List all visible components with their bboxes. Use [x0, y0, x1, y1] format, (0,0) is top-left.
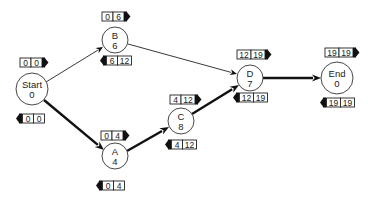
critical-path-network-diagram: Start00000B606612A40404C8412412D71219121… [0, 0, 368, 202]
node-duration: 0 [334, 78, 339, 89]
forward-pass-box: 00 [20, 57, 49, 68]
start-value: 19 [327, 48, 337, 58]
start-value: 0 [26, 114, 31, 124]
backward-marker-icon [96, 180, 100, 191]
edge-line [127, 131, 162, 151]
nodes-layer: Start00000B606612A40404C8412412D71219121… [16, 11, 360, 191]
forward-pass-box: 1919 [325, 47, 360, 58]
backward-pass-box: 04 [96, 180, 125, 191]
forward-marker-icon [355, 47, 360, 58]
finish-value: 12 [185, 140, 195, 150]
edge-line [44, 100, 98, 145]
finish-value: 12 [120, 56, 130, 66]
edge-a-to-c [127, 127, 169, 151]
start-value: 0 [104, 131, 109, 141]
start-value: 12 [242, 93, 252, 103]
node-duration: 6 [112, 40, 117, 51]
node-duration: 0 [29, 89, 34, 100]
backward-pass-box: 612 [100, 55, 132, 66]
start-value: 0 [106, 181, 111, 191]
start-value: 0 [23, 58, 28, 68]
backward-marker-icon [165, 139, 169, 150]
forward-pass-box: 06 [102, 11, 131, 22]
forward-marker-icon [44, 57, 49, 68]
arrowhead-icon [312, 74, 321, 81]
start-value: 4 [173, 95, 178, 105]
finish-value: 6 [116, 12, 121, 22]
node-b: B606612 [100, 11, 132, 66]
node-c: C8412412 [165, 94, 202, 150]
edge-b-to-d [128, 44, 237, 75]
node-duration: 4 [112, 156, 117, 167]
edge-start-to-b [46, 47, 103, 82]
backward-pass-box: 00 [16, 113, 45, 124]
node-a: A40404 [96, 130, 130, 191]
start-value: 19 [329, 98, 339, 108]
node-end: End019191919 [320, 47, 360, 108]
backward-pass-box: 1919 [320, 97, 355, 108]
backward-marker-icon [320, 97, 324, 108]
finish-value: 19 [253, 50, 263, 60]
forward-pass-box: 1219 [237, 49, 272, 60]
start-value: 6 [110, 56, 115, 66]
forward-marker-icon [126, 11, 131, 22]
arrowhead-icon [95, 47, 103, 53]
finish-value: 19 [256, 93, 266, 103]
finish-value: 0 [37, 114, 42, 124]
finish-value: 19 [343, 98, 353, 108]
backward-marker-icon [16, 113, 20, 124]
start-value: 12 [239, 50, 249, 60]
forward-marker-icon [125, 130, 130, 141]
finish-value: 12 [183, 95, 193, 105]
finish-value: 0 [34, 58, 39, 68]
finish-value: 4 [115, 131, 120, 141]
finish-value: 4 [117, 181, 122, 191]
edge-line [128, 44, 231, 72]
node-duration: 8 [178, 121, 183, 132]
backward-pass-box: 412 [165, 139, 197, 150]
start-value: 0 [105, 12, 110, 22]
forward-pass-box: 412 [170, 94, 202, 105]
edge-d-to-end [263, 74, 321, 81]
backward-pass-box: 1219 [233, 92, 268, 103]
forward-marker-icon [267, 49, 272, 60]
node-duration: 7 [247, 78, 252, 89]
forward-pass-box: 04 [101, 130, 130, 141]
edge-line [46, 50, 98, 82]
edge-start-to-a [44, 100, 104, 150]
node-d: D712191219 [233, 49, 272, 103]
finish-value: 19 [341, 48, 351, 58]
node-start: Start00000 [16, 57, 49, 124]
backward-marker-icon [100, 55, 104, 66]
backward-marker-icon [233, 92, 237, 103]
start-value: 4 [175, 140, 180, 150]
forward-marker-icon [197, 94, 202, 105]
